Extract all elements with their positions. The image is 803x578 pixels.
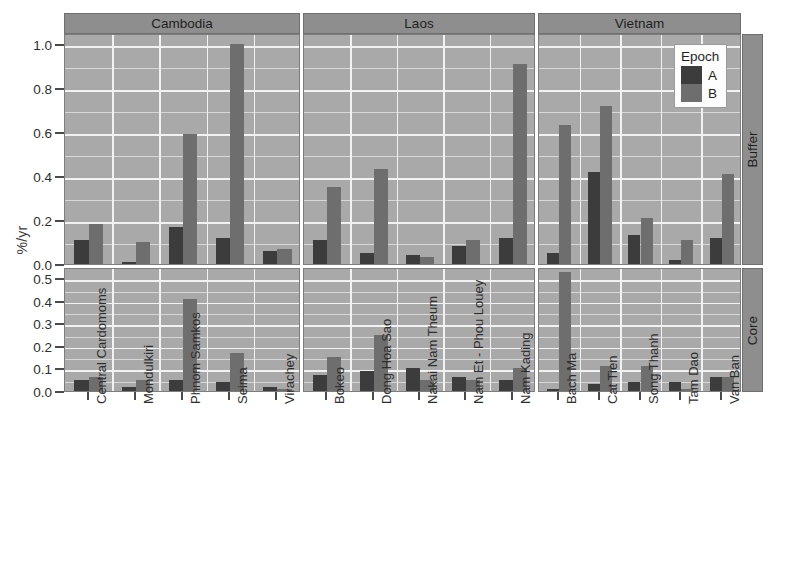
x-tick-mark bbox=[511, 392, 513, 400]
gridline-minor bbox=[304, 156, 534, 157]
x-tick-mark bbox=[639, 392, 641, 400]
x-tick-mark bbox=[325, 392, 327, 400]
gridline-vertical bbox=[112, 269, 114, 391]
gridline-vertical bbox=[397, 35, 399, 264]
y-axis-ticks-buffer: 0.00.20.40.60.81.0 bbox=[18, 34, 64, 265]
y-tick-mark bbox=[55, 176, 64, 178]
gridline-vertical bbox=[443, 35, 445, 264]
x-tick-label: Song Thanh bbox=[646, 333, 661, 404]
gridline-vertical bbox=[159, 269, 161, 391]
gridline-vertical bbox=[443, 269, 445, 391]
y-tick-mark bbox=[55, 391, 64, 393]
bar-a bbox=[547, 253, 559, 264]
gridline-minor bbox=[65, 156, 299, 157]
gridline-vertical bbox=[397, 269, 399, 391]
gridline-major bbox=[304, 46, 534, 48]
bar-b bbox=[466, 240, 480, 264]
legend-label-a: A bbox=[708, 68, 717, 83]
bar-a bbox=[628, 235, 640, 264]
gridline-vertical bbox=[701, 269, 703, 391]
bar-a bbox=[74, 380, 88, 391]
bar-b bbox=[600, 106, 612, 264]
bar-a bbox=[406, 368, 420, 391]
bar-b bbox=[89, 224, 103, 264]
y-tick-label: 0.1 bbox=[33, 362, 52, 377]
gridline-major bbox=[304, 348, 534, 350]
x-tick-label: Bokeo bbox=[332, 367, 347, 404]
gridline-major bbox=[304, 178, 534, 180]
bar-a bbox=[169, 380, 183, 391]
bar-a bbox=[122, 262, 136, 264]
bar-a bbox=[588, 172, 600, 264]
y-tick-label: 0.4 bbox=[33, 294, 52, 309]
bar-b bbox=[183, 134, 197, 264]
y-tick-label: 0.8 bbox=[33, 82, 52, 97]
figure-root: %/yr Cambodia Laos Vietnam Buffer Core 0… bbox=[0, 0, 803, 578]
y-tick-label: 0.2 bbox=[33, 339, 52, 354]
legend: Epoch A B bbox=[674, 44, 727, 108]
gridline-major bbox=[304, 90, 534, 92]
x-tick-label: Dong Hoa Sao bbox=[379, 319, 394, 404]
bar-a bbox=[452, 246, 466, 264]
bar-b bbox=[513, 64, 527, 264]
x-tick-mark bbox=[181, 392, 183, 400]
x-tick-mark bbox=[679, 392, 681, 400]
y-tick-mark bbox=[55, 132, 64, 134]
gridline-major bbox=[304, 134, 534, 136]
y-tick-mark bbox=[55, 278, 64, 280]
legend-entry-a: A bbox=[681, 66, 719, 84]
bar-b bbox=[230, 44, 244, 264]
x-tick-mark bbox=[418, 392, 420, 400]
gridline-major bbox=[65, 134, 299, 136]
x-tick-label: Central Cardomoms bbox=[94, 288, 109, 404]
y-tick-mark bbox=[55, 264, 64, 266]
facet-strip-buffer: Buffer bbox=[742, 34, 763, 265]
y-tick-label: 0.6 bbox=[33, 126, 52, 141]
gridline-major bbox=[65, 90, 299, 92]
bar-a bbox=[263, 251, 277, 264]
y-tick-label: 0.2 bbox=[33, 214, 52, 229]
x-tick-label: Cat Tien bbox=[605, 356, 620, 404]
bar-b bbox=[374, 169, 388, 264]
gridline-minor bbox=[304, 112, 534, 113]
gridline-major bbox=[65, 178, 299, 180]
bar-b bbox=[420, 257, 434, 264]
bar-b bbox=[641, 218, 653, 264]
gridline-minor bbox=[304, 292, 534, 293]
x-tick-mark bbox=[720, 392, 722, 400]
x-tick-label: Nakai Nam Theum bbox=[425, 296, 440, 404]
y-tick-label: 0.5 bbox=[33, 272, 52, 287]
y-tick-mark bbox=[55, 368, 64, 370]
bar-a bbox=[216, 382, 230, 391]
bar-a bbox=[313, 240, 327, 264]
gridline-minor bbox=[539, 112, 740, 113]
facet-strip-cambodia-label: Cambodia bbox=[151, 16, 213, 31]
gridline-vertical bbox=[661, 35, 663, 264]
gridline-vertical bbox=[490, 269, 492, 391]
bar-b bbox=[327, 187, 341, 264]
x-tick-mark bbox=[87, 392, 89, 400]
x-tick-mark bbox=[275, 392, 277, 400]
bar-a bbox=[499, 238, 513, 264]
y-tick-label: 0.3 bbox=[33, 317, 52, 332]
x-tick-mark bbox=[134, 392, 136, 400]
y-tick-label: 0.4 bbox=[33, 170, 52, 185]
y-axis-ticks-core: 0.00.10.20.30.40.5 bbox=[18, 268, 64, 392]
bar-a bbox=[122, 387, 136, 392]
gridline-major bbox=[65, 46, 299, 48]
y-tick-mark bbox=[55, 44, 64, 46]
bar-a bbox=[628, 382, 640, 391]
y-tick-mark bbox=[55, 323, 64, 325]
bar-b bbox=[722, 174, 734, 264]
legend-swatch-b bbox=[681, 84, 702, 102]
x-tick-mark bbox=[372, 392, 374, 400]
x-tick-label: Nam Kading bbox=[518, 332, 533, 404]
x-tick-label: Mondulkiri bbox=[141, 345, 156, 404]
legend-entry-b: B bbox=[681, 84, 719, 102]
bar-b bbox=[277, 249, 291, 264]
bar-a bbox=[313, 375, 327, 391]
bar-a bbox=[360, 371, 374, 391]
gridline-minor bbox=[65, 68, 299, 69]
y-tick-mark bbox=[55, 301, 64, 303]
facet-strip-vietnam: Vietnam bbox=[538, 13, 741, 34]
